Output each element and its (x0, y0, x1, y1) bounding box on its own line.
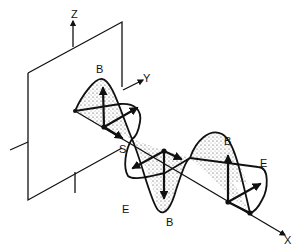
x-axis: X (75, 111, 292, 246)
b-vector-1 (103, 88, 104, 127)
b-label-3: B (224, 135, 231, 147)
e-label-1: E (122, 203, 129, 215)
e-label-2: E (260, 157, 267, 169)
z-axis: Z (71, 8, 78, 47)
b-label-2: B (166, 216, 173, 228)
y-axis: Y (123, 72, 151, 90)
x-axis-label: X (284, 234, 292, 246)
em-wave-diagram: Z Y X (0, 0, 301, 247)
source-label: S (119, 143, 126, 155)
b-label-1: B (96, 63, 103, 75)
z-axis-label: Z (71, 8, 78, 20)
y-axis-label: Y (143, 72, 151, 84)
